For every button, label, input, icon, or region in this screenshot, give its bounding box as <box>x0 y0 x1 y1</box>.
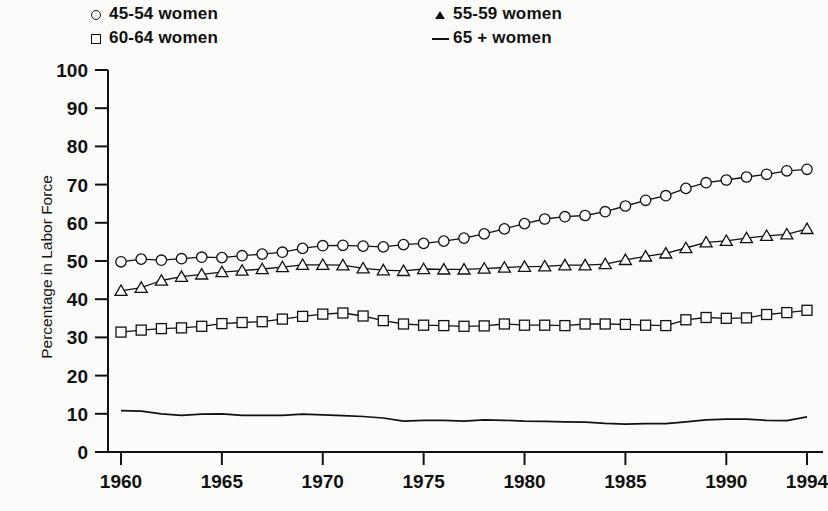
x-tick-label: 1985 <box>604 471 647 492</box>
square-marker-icon <box>338 308 348 318</box>
square-marker-icon <box>399 319 409 329</box>
square-marker-icon <box>701 313 711 323</box>
square-marker-icon <box>681 315 691 325</box>
square-marker-icon <box>156 324 166 334</box>
circle-marker-icon <box>741 172 751 182</box>
x-tick-label: 1975 <box>403 471 446 492</box>
circle-marker-icon <box>277 247 287 257</box>
square-marker-icon <box>580 319 590 329</box>
circle-marker-icon <box>681 183 691 193</box>
circle-marker-icon <box>600 207 610 217</box>
square-marker-icon <box>620 319 630 329</box>
y-tick-label: 20 <box>67 366 88 387</box>
circle-marker-icon <box>338 240 348 250</box>
square-marker-icon <box>762 310 772 320</box>
square-marker-icon <box>318 309 328 319</box>
y-tick-label: 70 <box>67 175 88 196</box>
circle-marker-icon <box>439 236 449 246</box>
square-marker-icon <box>419 320 429 330</box>
plot-area: 0102030405060708090100 19601965197019751… <box>0 0 828 511</box>
x-tick-label: 1960 <box>100 471 142 492</box>
circle-marker-icon <box>721 175 731 185</box>
circle-marker-icon <box>560 212 570 222</box>
circle-marker-icon <box>297 243 307 253</box>
circle-marker-icon <box>761 169 771 179</box>
square-marker-icon <box>540 320 550 330</box>
square-marker-icon <box>721 313 731 323</box>
circle-marker-icon <box>156 255 166 265</box>
circle-marker-icon <box>701 178 711 188</box>
circle-marker-icon <box>237 251 247 261</box>
square-marker-icon <box>177 323 187 333</box>
square-marker-icon <box>742 313 752 323</box>
circle-marker-icon <box>378 242 388 252</box>
x-tick-label: 1970 <box>302 471 344 492</box>
axis-lines <box>108 70 823 452</box>
y-tick-label: 10 <box>67 404 88 425</box>
circle-marker-icon <box>499 224 509 234</box>
circle-marker-icon <box>318 241 328 251</box>
square-marker-icon <box>479 321 489 331</box>
circle-marker-icon <box>217 252 227 262</box>
square-marker-icon <box>217 319 227 329</box>
chart-page: 45-54 women 60-64 women 55-59 women 65 +… <box>0 0 828 511</box>
circle-marker-icon <box>136 254 146 264</box>
square-marker-icon <box>520 320 530 330</box>
square-marker-icon <box>378 316 388 326</box>
square-marker-icon <box>136 325 146 335</box>
square-marker-icon <box>237 318 247 328</box>
y-tick-label: 0 <box>77 442 88 463</box>
circle-marker-icon <box>176 254 186 264</box>
square-marker-icon <box>641 320 651 330</box>
y-tick-label: 60 <box>67 213 88 234</box>
circle-marker-icon <box>580 210 590 220</box>
x-tick-label: 1965 <box>201 471 244 492</box>
chart-svg: 0102030405060708090100 19601965197019751… <box>0 0 828 511</box>
square-marker-icon <box>661 321 671 331</box>
square-marker-icon <box>459 321 469 331</box>
x-tick-label: 1994 <box>786 471 828 492</box>
y-tick-label: 50 <box>67 251 88 272</box>
triangle-marker-icon <box>801 223 813 233</box>
square-marker-icon <box>298 311 308 321</box>
square-marker-icon <box>197 321 207 331</box>
circle-marker-icon <box>257 249 267 259</box>
x-tick-label: 1980 <box>503 471 545 492</box>
square-marker-icon <box>358 311 368 321</box>
square-marker-icon <box>277 314 287 324</box>
square-marker-icon <box>560 321 570 331</box>
y-tick-label: 100 <box>56 60 88 81</box>
circle-marker-icon <box>459 233 469 243</box>
circle-marker-icon <box>418 238 428 248</box>
triangle-marker-icon <box>418 263 430 273</box>
square-marker-icon <box>802 305 812 315</box>
circle-marker-icon <box>782 166 792 176</box>
circle-marker-icon <box>398 239 408 249</box>
x-tick-label: 1990 <box>705 471 747 492</box>
series-line-65-women <box>121 411 807 424</box>
square-marker-icon <box>600 319 610 329</box>
square-marker-icon <box>499 319 509 329</box>
y-axis-ticks: 0102030405060708090100 <box>56 60 108 463</box>
circle-marker-icon <box>661 191 671 201</box>
circle-marker-icon <box>620 201 630 211</box>
square-marker-icon <box>782 308 792 318</box>
y-tick-label: 90 <box>67 98 88 119</box>
data-series <box>115 164 813 424</box>
y-tick-label: 40 <box>67 289 88 310</box>
triangle-marker-icon <box>135 282 147 292</box>
square-marker-icon <box>116 327 126 337</box>
circle-marker-icon <box>802 164 812 174</box>
square-marker-icon <box>439 321 449 331</box>
y-tick-label: 80 <box>67 136 88 157</box>
circle-marker-icon <box>479 229 489 239</box>
square-marker-icon <box>257 317 267 327</box>
circle-marker-icon <box>358 241 368 251</box>
circle-marker-icon <box>640 195 650 205</box>
x-axis-ticks: 19601965197019751980198519901994 <box>100 452 828 492</box>
circle-marker-icon <box>197 252 207 262</box>
circle-marker-icon <box>519 218 529 228</box>
circle-marker-icon <box>116 257 126 267</box>
y-tick-label: 30 <box>67 327 88 348</box>
circle-marker-icon <box>540 214 550 224</box>
